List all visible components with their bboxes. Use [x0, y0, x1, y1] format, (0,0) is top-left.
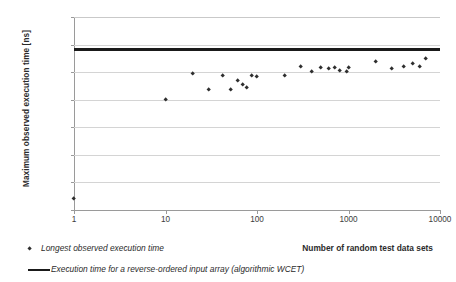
data-point [423, 57, 428, 62]
y-axis-title: Maximum observed execution time [ns] [22, 9, 31, 209]
y-tick-mark [71, 17, 74, 18]
gridline [74, 17, 440, 18]
y-tick-mark [71, 72, 74, 73]
gridline [74, 182, 440, 183]
data-point [332, 65, 337, 70]
legend-label-scatter: Longest observed execution time [41, 243, 164, 253]
data-point [72, 197, 77, 202]
y-tick-mark [71, 155, 74, 156]
x-tick-mark [440, 211, 441, 214]
y-tick-mark [71, 127, 74, 128]
data-point [346, 65, 351, 70]
y-tick-mark [71, 45, 74, 46]
line-marker-icon [28, 269, 50, 271]
data-point [326, 66, 331, 71]
gridline [74, 100, 440, 101]
data-point [417, 64, 422, 69]
x-tick-mark [74, 211, 75, 214]
data-point [207, 87, 212, 92]
x-tick-mark [349, 211, 350, 214]
data-point [298, 65, 303, 70]
data-point [245, 85, 250, 90]
data-point [390, 66, 395, 71]
y-tick-mark [71, 100, 74, 101]
data-point [410, 61, 415, 66]
data-point [229, 87, 234, 92]
x-tick-label: 100 [234, 215, 280, 224]
x-tick-mark [257, 211, 258, 214]
scatter-marker-icon [27, 246, 32, 251]
plot-area [74, 17, 440, 210]
x-tick-label: 1000 [326, 215, 372, 224]
data-point [163, 98, 168, 103]
data-point [282, 73, 287, 78]
wcet-threshold-line [74, 48, 440, 50]
legend-label-wcet: Execution time for a reverse-ordered inp… [51, 264, 304, 274]
gridline [74, 155, 440, 156]
data-point [220, 73, 225, 78]
x-tick-label: 1 [51, 215, 97, 224]
legend-row-scatter: Longest observed execution time Number o… [28, 243, 441, 255]
x-axis-title: Number of random test data sets [302, 243, 433, 253]
data-point [319, 65, 324, 70]
x-tick-label: 10000 [417, 215, 456, 224]
y-tick-mark [71, 182, 74, 183]
data-point [255, 74, 260, 79]
data-point [401, 64, 406, 69]
data-point [374, 59, 379, 64]
x-tick-mark [166, 211, 167, 214]
x-tick-label: 10 [143, 215, 189, 224]
gridline [74, 72, 440, 73]
gridline [74, 127, 440, 128]
gridline [74, 45, 440, 46]
data-point [236, 79, 241, 84]
